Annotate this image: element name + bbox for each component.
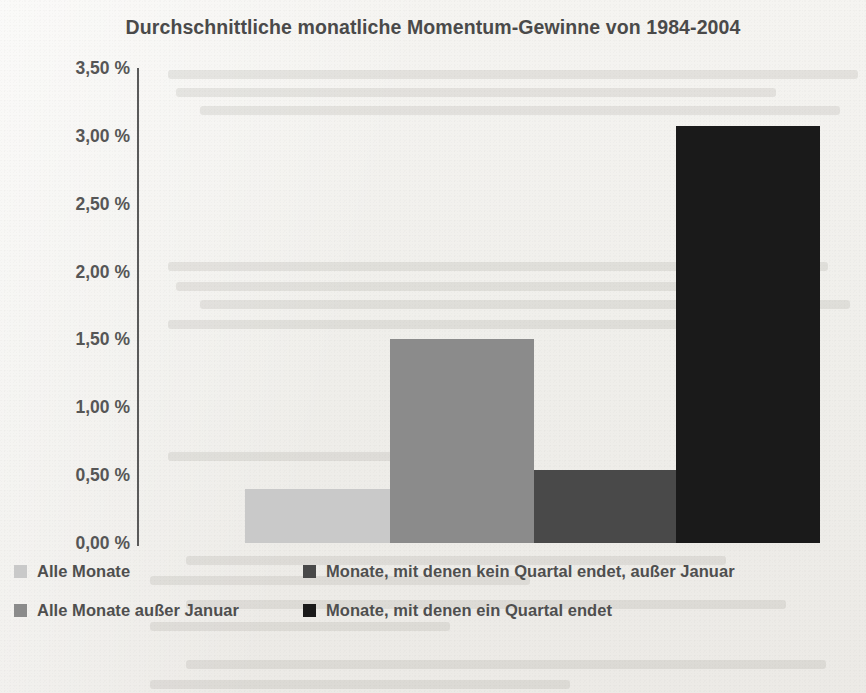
bar-series <box>245 0 820 560</box>
legend-item-label: Monate, mit denen ein Quartal endet <box>326 601 612 620</box>
legend-item: Alle Monate außer Januar <box>14 601 239 620</box>
y-axis-tick-label: 0,50 % <box>30 465 130 486</box>
bleed-through-line <box>150 680 570 689</box>
chart-legend: Alle MonateAlle Monate außer JanuarMonat… <box>14 558 854 638</box>
chart-page: Durchschnittliche monatliche Momentum-Ge… <box>0 0 866 693</box>
y-axis-tick-label: 1,00 % <box>30 397 130 418</box>
plot-area: 0,00 %0,50 %1,00 %1,50 %2,00 %2,50 %3,00… <box>0 0 866 560</box>
bar <box>676 126 820 543</box>
legend-swatch-icon <box>14 604 27 617</box>
legend-item-label: Alle Monate <box>37 562 130 581</box>
y-axis-tick-label: 2,50 % <box>30 193 130 214</box>
legend-item-label: Monate, mit denen kein Quartal endet, au… <box>326 562 735 581</box>
bleed-through-line <box>186 660 826 669</box>
legend-item: Monate, mit denen kein Quartal endet, au… <box>303 562 735 581</box>
y-axis-tick-label: 1,50 % <box>30 329 130 350</box>
y-axis-tick-label: 2,00 % <box>30 261 130 282</box>
y-axis-tick-label: 0,00 % <box>30 533 130 554</box>
legend-item-label: Alle Monate außer Januar <box>37 601 239 620</box>
legend-swatch-icon <box>14 565 27 578</box>
bar <box>245 489 390 543</box>
legend-item: Alle Monate <box>14 562 130 581</box>
y-axis-line <box>137 68 139 546</box>
bar <box>534 470 676 543</box>
bar <box>390 339 534 543</box>
legend-item: Monate, mit denen ein Quartal endet <box>303 601 612 620</box>
legend-swatch-icon <box>303 565 316 578</box>
y-axis-tick-labels: 0,00 %0,50 %1,00 %1,50 %2,00 %2,50 %3,00… <box>22 0 130 560</box>
y-axis-tick-label: 3,50 % <box>30 58 130 79</box>
y-axis-tick-label: 3,00 % <box>30 125 130 146</box>
legend-swatch-icon <box>303 604 316 617</box>
